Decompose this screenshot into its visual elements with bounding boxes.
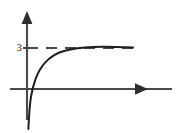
graph-canvas: 3 — [0, 0, 186, 133]
y-tick-label-3: 3 — [17, 41, 23, 53]
figure-container: 3 — [0, 0, 186, 133]
